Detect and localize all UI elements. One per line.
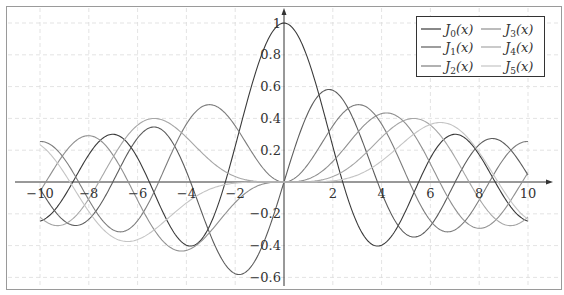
y-tick-label: −0.6 (249, 270, 281, 285)
y-tick-label: 1 (273, 16, 281, 31)
x-tick-label: 2 (329, 186, 337, 201)
y-tick-label: 0.8 (260, 47, 281, 62)
legend-label: J1(x) (442, 40, 473, 57)
x-tick-label: −4 (177, 186, 196, 201)
x-tick-label: −6 (128, 186, 147, 201)
x-tick-label: 4 (377, 186, 385, 201)
legend-label: J4(x) (502, 40, 533, 57)
y-tick-label: 0.4 (260, 111, 281, 126)
y-tick-label: −0.4 (249, 238, 281, 253)
legend-label: J3(x) (502, 22, 533, 39)
x-tick-label: −10 (26, 186, 53, 201)
x-tick-label: 6 (426, 186, 434, 201)
bessel-chart: −10−8−6−4−2246810−0.6−0.4−0.20.20.40.60.… (0, 0, 564, 295)
y-tick-label: −0.2 (249, 206, 281, 221)
legend-label: J5(x) (502, 59, 533, 76)
x-tick-label: −8 (79, 186, 98, 201)
x-tick-label: 10 (520, 186, 537, 201)
x-tick-label: −2 (226, 186, 245, 201)
x-tick-label: 8 (475, 186, 483, 201)
y-tick-label: 0.6 (260, 79, 281, 94)
y-tick-label: 0.2 (260, 143, 281, 158)
legend: J0(x)J1(x)J2(x)J3(x)J4(x)J5(x) (417, 17, 545, 77)
legend-label: J2(x) (442, 59, 473, 76)
legend-label: J0(x) (442, 22, 473, 39)
